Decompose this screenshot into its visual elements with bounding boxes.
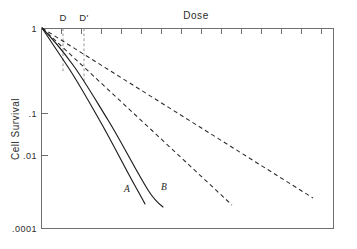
y-axis-title: Cell Survival [10, 98, 21, 160]
y-tick-label-0-0001: .0001 [12, 224, 37, 234]
y-axis-ticks [42, 114, 48, 156]
top-axis-ticks [62, 29, 322, 34]
extrapolation-steep-line [42, 28, 232, 205]
extrapolation-shallow-line [42, 28, 313, 198]
cell-survival-chart: Cell Survival Dose 1 .1 .01 .0001 D D' A… [0, 0, 357, 249]
axis-frame [42, 29, 334, 229]
y-tick-label-1: 1 [31, 24, 37, 34]
y-tick-label-0-1: .1 [28, 109, 37, 119]
survival-curve-a [42, 28, 145, 204]
chart-title: Dose [183, 10, 209, 21]
figure-root: Cell Survival Dose 1 .1 .01 .0001 D D' A… [0, 0, 357, 249]
y-tick-label-0-01: .01 [23, 151, 37, 161]
curve-label-b: B [161, 182, 167, 192]
dose-marker-label-d: D [59, 12, 66, 23]
curve-label-a: A [123, 184, 130, 194]
dose-marker-label-d-prime: D' [79, 12, 88, 23]
